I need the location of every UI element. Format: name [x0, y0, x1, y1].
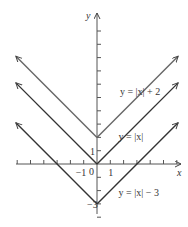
series-line-left	[16, 83, 97, 164]
origin-label: 0	[89, 166, 94, 177]
y-axis-label: y	[85, 10, 91, 21]
x-tick-label: −1	[76, 167, 87, 178]
labels: y = |x| + 2y = |x|y = |x| − 3xy−111−30	[76, 10, 182, 210]
series-line-left	[16, 56, 97, 137]
series-line-left	[16, 123, 97, 204]
series-label: y = |x| + 2	[120, 86, 160, 97]
series-label: y = |x| − 3	[119, 187, 159, 198]
x-axis-label: x	[176, 167, 182, 178]
chart: y = |x| + 2y = |x|y = |x| − 3xy−111−30	[0, 0, 188, 227]
y-tick-label: −3	[87, 199, 98, 210]
x-tick-label: 1	[108, 167, 113, 178]
y-tick-label: 1	[90, 146, 95, 157]
series-label: y = |x|	[119, 131, 144, 142]
